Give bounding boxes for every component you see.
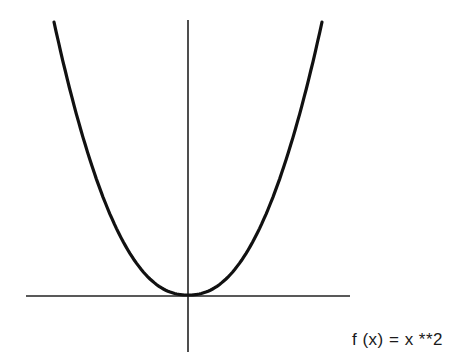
function-plot [0,0,463,363]
function-caption: f (x) = x **2 [352,330,443,350]
